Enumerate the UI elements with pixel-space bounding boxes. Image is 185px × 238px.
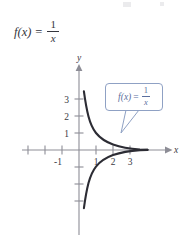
callout-numerator: 1	[142, 86, 150, 96]
graph-plot: -1 1 2 3 3 2 1 y x	[0, 0, 185, 238]
x-axis-label: x	[173, 145, 179, 155]
callout-label: f(x) = 1 x	[105, 83, 163, 111]
callout-tail	[121, 110, 139, 133]
x-tick-label-2: 2	[111, 157, 116, 167]
callout-function: f(x)	[118, 92, 131, 102]
callout-denominator: x	[142, 97, 150, 107]
y-tick-label-3: 3	[64, 95, 69, 105]
callout-fraction: 1 x	[142, 86, 150, 106]
figure-container: f(x) = 1 x	[0, 0, 185, 238]
x-tick-label-3: 3	[128, 157, 133, 167]
x-tick-label--1: -1	[54, 157, 62, 167]
callout-equals: =	[133, 92, 138, 102]
y-tick-label-1: 1	[64, 129, 69, 139]
y-axis-label: y	[76, 53, 82, 63]
y-tick-label-2: 2	[64, 112, 69, 122]
